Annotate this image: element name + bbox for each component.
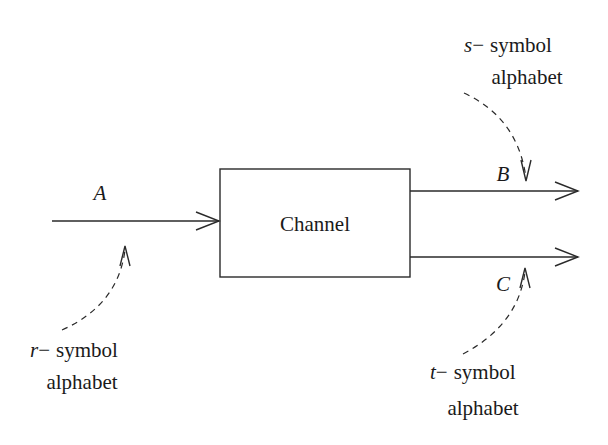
output-arrow-b bbox=[410, 182, 578, 200]
input-alphabet-line1: r−symbol bbox=[30, 338, 118, 362]
output-c-alphabet-line2: alphabet bbox=[447, 396, 518, 420]
output-b-alphabet-var: s bbox=[464, 33, 472, 57]
output-b-alphabet-line2: alphabet bbox=[491, 65, 562, 89]
output-b-alphabet-line1: s−symbol bbox=[464, 33, 552, 57]
channel-label: Channel bbox=[280, 212, 350, 236]
input-alphabet-line2: alphabet bbox=[46, 370, 117, 394]
output-label-b: B bbox=[497, 162, 510, 186]
input-arrow-a bbox=[52, 212, 219, 230]
input-label-a: A bbox=[92, 181, 107, 205]
output-label-c: C bbox=[496, 272, 511, 296]
input-alphabet-pointer bbox=[62, 246, 130, 330]
output-arrow-c bbox=[410, 248, 578, 266]
channel-diagram: Channel A B C r−symbol alphabet s−symbol… bbox=[0, 0, 608, 445]
output-c-alphabet-line1: t−symbol bbox=[430, 360, 516, 384]
